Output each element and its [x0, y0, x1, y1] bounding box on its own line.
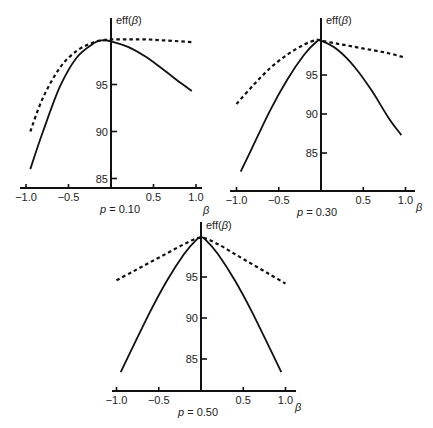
panel-caption: p = 0.30	[296, 206, 337, 218]
y-axis-title: eff(β)	[116, 14, 142, 26]
y-tick-label: 95	[306, 69, 318, 81]
x-tick-label: −0.5	[268, 194, 290, 206]
dashed-curve	[237, 40, 404, 104]
x-axis-title: β	[415, 201, 423, 213]
x-tick-label: −0.5	[58, 191, 80, 203]
y-tick-label: 85	[186, 353, 198, 365]
panel-caption: p = 0.50	[177, 406, 218, 418]
x-tick-label: 0.5	[356, 194, 371, 206]
x-tick-label: 0.5	[236, 394, 251, 406]
y-tick-label: 95	[186, 271, 198, 283]
x-tick-label: −1.0	[15, 191, 37, 203]
panel-p050: −1.0−0.50.51.0859095eff(β)βp = 0.50	[106, 219, 302, 418]
panel-p030: −1.0−0.50.51.0859095eff(β)βp = 0.30	[226, 14, 423, 218]
efficiency-figure: −1.0−0.50.51.0859095eff(β)βp = 0.10 −1.0…	[0, 0, 433, 428]
x-tick-label: 1.0	[188, 191, 203, 203]
x-tick-label: 1.0	[278, 394, 293, 406]
x-axis-title: β	[202, 204, 210, 216]
x-tick-label: 0.5	[146, 191, 161, 203]
y-tick-label: 95	[96, 79, 108, 91]
panel-p010: −1.0−0.50.51.0859095eff(β)βp = 0.10	[15, 14, 210, 216]
x-axis-title: β	[294, 401, 302, 413]
x-tick-label: −1.0	[106, 394, 128, 406]
y-tick-label: 85	[306, 147, 318, 159]
y-axis-title: eff(β)	[206, 219, 232, 231]
y-tick-label: 85	[96, 173, 108, 185]
x-tick-label: −1.0	[226, 194, 248, 206]
x-tick-label: −0.5	[148, 394, 170, 406]
y-tick-label: 90	[306, 108, 318, 120]
y-tick-label: 90	[96, 126, 108, 138]
y-tick-label: 90	[186, 312, 198, 324]
y-axis-title: eff(β)	[326, 14, 352, 26]
x-tick-label: 1.0	[398, 194, 413, 206]
panel-caption: p = 0.10	[99, 203, 140, 215]
